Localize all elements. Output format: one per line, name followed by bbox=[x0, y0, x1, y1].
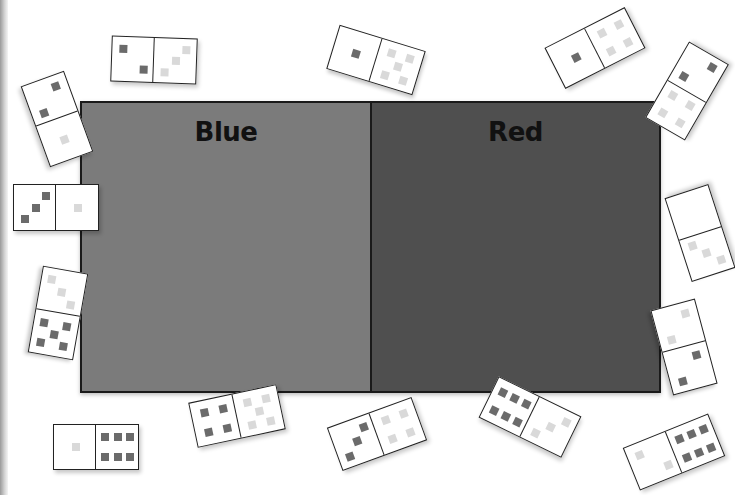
drop-zone-blue[interactable]: Blue bbox=[82, 103, 372, 391]
light-pip-icon bbox=[675, 117, 686, 128]
light-pip-icon bbox=[74, 204, 82, 212]
light-pip-icon bbox=[380, 70, 390, 80]
dark-pip-icon bbox=[512, 417, 523, 428]
light-pip-icon bbox=[614, 19, 625, 30]
zone-label-blue: Blue bbox=[82, 117, 370, 147]
dark-pip-icon bbox=[489, 405, 500, 416]
dark-pip-icon bbox=[219, 404, 228, 413]
light-pip-icon bbox=[605, 46, 616, 57]
domino-tile[interactable] bbox=[623, 413, 726, 490]
dark-pip-icon bbox=[204, 428, 213, 437]
light-pip-icon bbox=[386, 48, 396, 58]
dark-pip-icon bbox=[114, 433, 122, 441]
light-pip-icon bbox=[66, 301, 75, 310]
light-pip-icon bbox=[387, 434, 397, 444]
light-pip-icon bbox=[530, 427, 541, 438]
light-pip-icon bbox=[623, 37, 634, 48]
domino-tile[interactable] bbox=[110, 36, 198, 85]
dark-pip-icon bbox=[521, 399, 532, 410]
domino-half-right bbox=[232, 385, 284, 437]
dark-pip-icon bbox=[21, 215, 29, 223]
sorting-board: Blue Red bbox=[80, 101, 661, 393]
light-pip-icon bbox=[242, 397, 251, 406]
dark-pip-icon bbox=[51, 81, 61, 91]
domino-half-left bbox=[54, 425, 96, 469]
light-pip-icon bbox=[405, 53, 415, 63]
dark-pip-icon bbox=[59, 342, 68, 351]
dark-pip-icon bbox=[223, 424, 232, 433]
light-pip-icon bbox=[667, 90, 678, 101]
dark-pip-icon bbox=[350, 49, 360, 59]
light-pip-icon bbox=[406, 427, 416, 437]
light-pip-icon bbox=[596, 28, 607, 39]
dark-pip-icon bbox=[101, 453, 109, 461]
drop-zone-red[interactable]: Red bbox=[372, 103, 659, 391]
dark-pip-icon bbox=[40, 318, 49, 327]
dark-pip-icon bbox=[39, 108, 49, 118]
domino-half-right bbox=[153, 38, 197, 83]
domino-half-left bbox=[36, 267, 87, 317]
domino-tile[interactable] bbox=[327, 397, 427, 471]
light-pip-icon bbox=[561, 416, 572, 427]
dark-pip-icon bbox=[101, 433, 109, 441]
dark-pip-icon bbox=[32, 204, 40, 212]
domino-half-left bbox=[14, 185, 56, 230]
light-pip-icon bbox=[72, 443, 80, 451]
domino-tile[interactable] bbox=[13, 184, 99, 231]
light-pip-icon bbox=[399, 408, 409, 418]
domino-tile[interactable] bbox=[53, 424, 139, 470]
dark-pip-icon bbox=[686, 429, 696, 439]
light-pip-icon bbox=[57, 288, 66, 297]
dark-pip-icon bbox=[498, 387, 509, 398]
dark-pip-icon bbox=[509, 393, 520, 404]
light-pip-icon bbox=[681, 309, 691, 319]
light-pip-icon bbox=[266, 416, 275, 425]
light-pip-icon bbox=[657, 107, 668, 118]
light-pip-icon bbox=[545, 422, 556, 433]
light-pip-icon bbox=[254, 407, 263, 416]
light-pip-icon bbox=[667, 335, 677, 345]
dark-pip-icon bbox=[570, 52, 581, 63]
domino-tile[interactable] bbox=[188, 384, 286, 448]
light-pip-icon bbox=[262, 393, 271, 402]
dark-pip-icon bbox=[42, 192, 50, 200]
light-pip-icon bbox=[182, 45, 190, 53]
light-pip-icon bbox=[701, 248, 711, 258]
dark-pip-icon bbox=[126, 453, 134, 461]
dark-pip-icon bbox=[352, 436, 362, 446]
dark-pip-icon bbox=[119, 45, 127, 53]
light-pip-icon bbox=[380, 415, 390, 425]
dark-pip-icon bbox=[692, 350, 702, 360]
dark-pip-icon bbox=[50, 330, 59, 339]
domino-tile[interactable] bbox=[544, 7, 645, 89]
light-pip-icon bbox=[48, 275, 57, 284]
zone-label-red: Red bbox=[372, 117, 659, 147]
light-pip-icon bbox=[171, 57, 179, 65]
dark-pip-icon bbox=[682, 452, 692, 462]
dark-pip-icon bbox=[707, 62, 718, 73]
light-pip-icon bbox=[634, 450, 644, 460]
dark-pip-icon bbox=[358, 422, 368, 432]
dark-pip-icon bbox=[706, 443, 716, 453]
dark-pip-icon bbox=[63, 322, 72, 331]
dark-pip-icon bbox=[126, 433, 134, 441]
light-pip-icon bbox=[687, 241, 697, 251]
light-pip-icon bbox=[59, 134, 69, 144]
domino-half-right bbox=[96, 425, 138, 469]
light-pip-icon bbox=[247, 420, 256, 429]
domino-half-right bbox=[29, 309, 80, 359]
domino-tile[interactable] bbox=[665, 184, 735, 282]
dark-pip-icon bbox=[694, 448, 704, 458]
light-pip-icon bbox=[393, 62, 403, 72]
domino-half-right bbox=[56, 185, 98, 230]
dark-pip-icon bbox=[674, 434, 684, 444]
domino-tile[interactable] bbox=[326, 25, 426, 95]
dark-pip-icon bbox=[114, 453, 122, 461]
dark-pip-icon bbox=[678, 71, 689, 82]
light-pip-icon bbox=[399, 75, 409, 85]
dark-pip-icon bbox=[500, 411, 511, 422]
domino-half-left bbox=[111, 37, 155, 82]
page-edge-strip bbox=[0, 0, 8, 495]
light-pip-icon bbox=[716, 255, 726, 265]
light-pip-icon bbox=[685, 100, 696, 111]
